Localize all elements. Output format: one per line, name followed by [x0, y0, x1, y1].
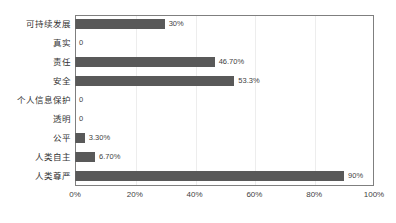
bar	[75, 57, 215, 67]
y-axis-label: 个人信息保护	[0, 91, 71, 110]
bar-value-label: 46.70%	[219, 55, 244, 69]
bar-row: 6.70%	[75, 148, 374, 167]
bar	[75, 133, 85, 143]
bar-row: 0	[75, 110, 374, 129]
bar-row: 0	[75, 34, 374, 53]
bar-chart: 可持续发展真实责任安全个人信息保护透明公平人类自主人类尊严 30%046.70%…	[0, 0, 396, 223]
bar-value-label: 6.70%	[99, 150, 120, 164]
bar	[75, 76, 234, 86]
y-axis-label: 真实	[0, 34, 71, 53]
y-axis-label: 人类自主	[0, 148, 71, 167]
bar	[75, 152, 95, 162]
x-axis-tick-label: 0%	[69, 188, 81, 202]
bar-value-label: 0	[79, 36, 83, 50]
x-axis-tick-label: 20%	[127, 188, 143, 202]
bar-value-label: 3.30%	[89, 131, 110, 145]
bar-series: 30%046.70%53.3%003.30%6.70%90%	[75, 15, 374, 186]
bar-row: 46.70%	[75, 53, 374, 72]
bar	[75, 19, 165, 29]
y-axis-label: 可持续发展	[0, 15, 71, 34]
x-axis-tick-label: 100%	[364, 188, 384, 202]
y-axis-label: 责任	[0, 53, 71, 72]
x-axis-tick-label: 40%	[187, 188, 203, 202]
x-axis-tick-label: 60%	[246, 188, 262, 202]
y-axis-category-labels: 可持续发展真实责任安全个人信息保护透明公平人类自主人类尊严	[0, 15, 71, 186]
bar	[75, 171, 344, 181]
bar-value-label: 0	[79, 93, 83, 107]
bar-row: 30%	[75, 15, 374, 34]
bar-value-label: 0	[79, 112, 83, 126]
bar-row: 0	[75, 91, 374, 110]
bar-row: 53.3%	[75, 72, 374, 91]
y-axis-label: 公平	[0, 129, 71, 148]
bar-value-label: 90%	[348, 169, 363, 183]
y-axis-label: 透明	[0, 110, 71, 129]
bar-row: 3.30%	[75, 129, 374, 148]
bar-value-label: 53.3%	[238, 74, 259, 88]
y-axis-label: 安全	[0, 72, 71, 91]
x-axis-tick-label: 80%	[306, 188, 322, 202]
y-axis-label: 人类尊严	[0, 167, 71, 186]
x-axis-tick-labels: 0%20%40%60%80%100%	[0, 188, 396, 204]
bar-row: 90%	[75, 167, 374, 186]
bar-value-label: 30%	[169, 17, 184, 31]
